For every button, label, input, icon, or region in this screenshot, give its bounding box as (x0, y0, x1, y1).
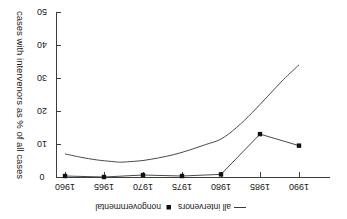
series-all-intervenors (65, 65, 299, 162)
y-tick-label: 10 (37, 139, 47, 149)
data-point-marker (180, 174, 184, 178)
data-point-marker (297, 143, 301, 147)
legend-square-glyph-nongovernmental (167, 205, 172, 210)
y-axis: 0 10 20 30 40 50 cases with intervenors … (15, 7, 61, 182)
x-axis: 1990 1985 1980 1975 1970 1965 1960 (55, 172, 330, 192)
x-tick-label: 1965 (94, 182, 114, 192)
legend-label-all-intervenors: all intervenors (178, 202, 231, 212)
y-tick-label: 20 (37, 106, 47, 116)
data-point-marker (63, 174, 67, 178)
x-tick-label: 1970 (133, 182, 153, 192)
legend-label-nongovernmental: nongovernmental (95, 202, 161, 212)
y-tick-label: 30 (37, 73, 47, 83)
rotated-figure-container: all intervenors nongovernmental 1990 198… (0, 0, 347, 219)
x-tick-label: 1975 (172, 182, 192, 192)
x-tick-label: 1960 (55, 182, 75, 192)
chart-legend: all intervenors nongovernmental (95, 202, 246, 212)
data-point-marker (141, 173, 145, 177)
data-point-marker (102, 175, 106, 179)
y-axis-title: cases with intervenors as % of all cases (15, 11, 26, 179)
chart-plot-area: all intervenors nongovernmental 1990 198… (0, 0, 347, 219)
line-chart-figure: all intervenors nongovernmental 1990 198… (0, 0, 347, 219)
y-tick-label: 40 (37, 40, 47, 50)
y-tick-label: 50 (37, 7, 47, 17)
data-point-marker (258, 132, 262, 136)
x-tick-label: 1980 (211, 182, 231, 192)
x-tick-label: 1990 (289, 182, 309, 192)
data-point-marker (219, 172, 223, 176)
x-tick-label: 1985 (250, 182, 270, 192)
series-line-nongovernmental (65, 134, 299, 177)
series-line-all-intervenors (65, 65, 299, 162)
y-tick-label: 0 (39, 172, 44, 182)
